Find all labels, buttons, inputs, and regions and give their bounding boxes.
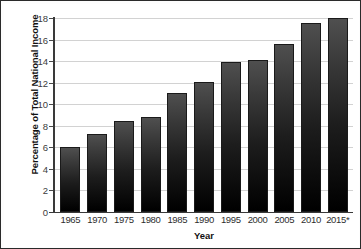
- x-tick-label: 1975: [110, 214, 137, 225]
- bar-slot: [57, 18, 84, 212]
- bar-2010: [301, 23, 321, 212]
- y-tick-label: 0: [22, 207, 48, 218]
- x-tick-label: 1985: [164, 214, 191, 225]
- bar-1980: [141, 117, 161, 212]
- bar-slot: [298, 18, 325, 212]
- y-tick-label: 10: [22, 99, 48, 110]
- y-tick-label: 4: [22, 163, 48, 174]
- x-tick-label: 1970: [84, 214, 111, 225]
- x-tick-label: 1990: [191, 214, 218, 225]
- bar-1975: [114, 121, 134, 212]
- x-tick-label: 2010: [298, 214, 325, 225]
- x-tick-label: 2005: [271, 214, 298, 225]
- y-tick-label: 16: [22, 34, 48, 45]
- bar-series: [55, 18, 353, 212]
- plot-area: [55, 18, 353, 212]
- x-tick-label: 1995: [217, 214, 244, 225]
- bar-slot: [164, 18, 191, 212]
- bar-1995: [221, 62, 241, 212]
- y-tick-label: 2: [22, 185, 48, 196]
- bar-slot: [271, 18, 298, 212]
- bar-slot: [110, 18, 137, 212]
- bar-slot: [191, 18, 218, 212]
- bar-slot: [244, 18, 271, 212]
- y-tick-label: 6: [22, 142, 48, 153]
- bar-2005: [274, 44, 294, 212]
- bar-2015: [328, 18, 348, 212]
- bar-slot: [217, 18, 244, 212]
- y-tick-label: 8: [22, 120, 48, 131]
- bar-1985: [167, 93, 187, 212]
- y-tick-label: 14: [22, 56, 48, 67]
- x-axis-tick-labels: 1965197019751980198519901995200020052010…: [55, 214, 353, 225]
- bar-slot: [324, 18, 351, 212]
- bar-2000: [248, 60, 268, 212]
- x-tick-label: 2000: [244, 214, 271, 225]
- x-tick-label: 1980: [137, 214, 164, 225]
- x-axis-title: Year: [55, 230, 353, 241]
- chart-figure: Percentage of Total National Income 0246…: [0, 0, 361, 249]
- bar-1965: [60, 147, 80, 212]
- bar-1970: [87, 134, 107, 212]
- chart-plot-container: Percentage of Total National Income 0246…: [4, 4, 359, 247]
- x-tick-label: 2015*: [324, 214, 351, 225]
- bar-slot: [84, 18, 111, 212]
- bar-1990: [194, 82, 214, 212]
- x-tick-label: 1965: [57, 214, 84, 225]
- y-tick-label: 12: [22, 77, 48, 88]
- y-axis-tick-labels: 024681012141618: [18, 18, 48, 212]
- bar-slot: [137, 18, 164, 212]
- y-tick-label: 18: [22, 13, 48, 24]
